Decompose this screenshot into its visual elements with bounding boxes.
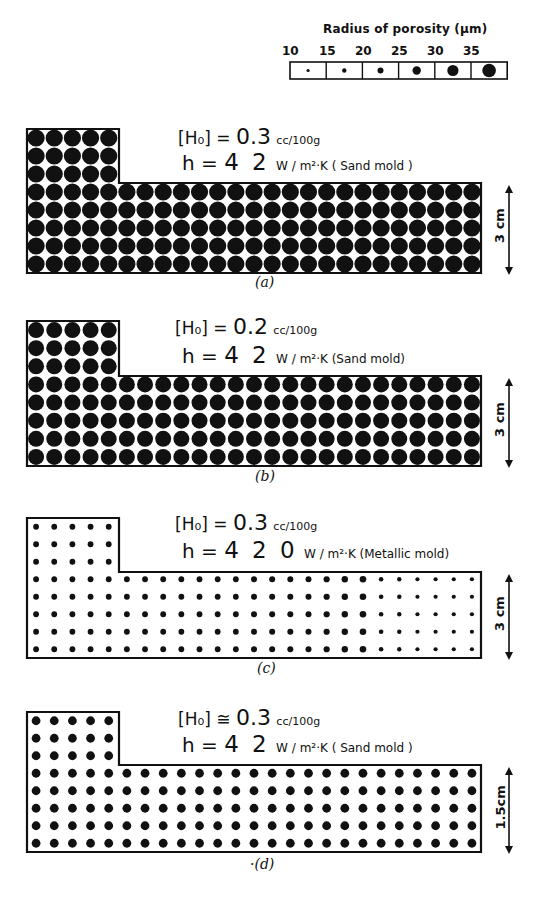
- panel-d-h: h = 4 2 W / m²·K ( Sand mold ): [182, 731, 413, 757]
- porosity-dot: [373, 431, 389, 447]
- porosity-dot: [106, 576, 112, 582]
- porosity-dot: [51, 594, 57, 600]
- porosity-dot: [464, 449, 480, 465]
- porosity-dot: [104, 769, 113, 778]
- porosity-dot: [251, 629, 257, 635]
- porosity-dot: [391, 183, 408, 200]
- porosity-dot: [377, 769, 386, 778]
- porosity-dot: [415, 612, 419, 616]
- porosity-dot: [324, 646, 330, 652]
- porosity-dot: [395, 804, 404, 813]
- porosity-dot: [155, 219, 172, 236]
- porosity-dot: [373, 395, 389, 411]
- porosity-dot: [155, 376, 171, 392]
- porosity-dot: [268, 804, 277, 813]
- porosity-dot: [391, 413, 407, 429]
- porosity-dot: [324, 629, 330, 635]
- porosity-dot: [197, 629, 203, 635]
- porosity-dot: [431, 804, 440, 813]
- porosity-dot: [395, 839, 404, 848]
- porosity-dot: [177, 839, 186, 848]
- porosity-dot: [468, 786, 477, 795]
- porosity-dot: [377, 839, 386, 848]
- porosity-dot: [452, 577, 456, 581]
- porosity-dot: [300, 413, 316, 429]
- porosity-dot: [101, 431, 117, 447]
- porosity-dot: [106, 541, 112, 547]
- porosity-dot: [64, 340, 80, 356]
- porosity-dot: [264, 255, 281, 272]
- porosity-dot: [101, 449, 117, 465]
- porosity-dot: [340, 839, 349, 848]
- porosity-dot: [452, 647, 456, 651]
- porosity-dot: [415, 577, 419, 581]
- porosity-dot: [427, 255, 444, 272]
- porosity-dot: [215, 594, 221, 600]
- porosity-dot: [160, 629, 166, 635]
- porosity-dot: [178, 629, 184, 635]
- porosity-dot: [379, 629, 384, 634]
- porosity-dot: [470, 647, 474, 651]
- porosity-dot: [27, 201, 44, 218]
- porosity-dot: [70, 576, 76, 582]
- porosity-dot: [431, 821, 440, 830]
- porosity-dot: [360, 611, 367, 618]
- porosity-dot: [195, 821, 204, 830]
- porosity-dot: [391, 201, 408, 218]
- porosity-dot: [319, 376, 335, 392]
- porosity-dot: [445, 219, 462, 236]
- porosity-dot: [246, 395, 262, 411]
- porosity-dot: [51, 559, 57, 565]
- porosity-dot: [304, 804, 313, 813]
- porosity-dot: [142, 576, 148, 582]
- porosity-dot: [124, 594, 130, 600]
- porosity-dot: [68, 821, 77, 830]
- porosity-dot: [342, 646, 348, 652]
- porosity-dot: [159, 769, 168, 778]
- porosity-dot: [305, 629, 311, 635]
- porosity-dot: [82, 147, 99, 164]
- porosity-dot: [118, 201, 135, 218]
- porosity-dot: [413, 839, 422, 848]
- porosity-dot: [50, 716, 59, 725]
- porosity-dot: [33, 541, 39, 547]
- porosity-dot: [409, 449, 425, 465]
- porosity-dot: [337, 376, 353, 392]
- porosity-dot: [463, 237, 480, 254]
- porosity-dot: [209, 237, 226, 254]
- porosity-dot: [33, 559, 39, 565]
- porosity-dot: [173, 201, 190, 218]
- porosity-dot: [100, 219, 117, 236]
- porosity-dot: [100, 237, 117, 254]
- porosity-dot: [409, 376, 425, 392]
- porosity-dot: [124, 629, 130, 635]
- porosity-dot: [449, 839, 458, 848]
- porosity-dot: [46, 376, 62, 392]
- porosity-dot: [264, 237, 281, 254]
- legend-porosity-dot: [378, 68, 384, 74]
- porosity-dot: [300, 219, 317, 236]
- porosity-dot: [70, 646, 76, 652]
- porosity-dot: [445, 255, 462, 272]
- porosity-dot: [231, 821, 240, 830]
- porosity-dot: [142, 594, 148, 600]
- porosity-dot: [86, 839, 95, 848]
- h-label: h =: [182, 151, 224, 175]
- panel-d-dimension: 1.5cm: [493, 786, 508, 830]
- panel-a-dimension: 3 cm: [492, 206, 507, 246]
- porosity-dot: [88, 559, 94, 565]
- arrow-up-icon: [505, 378, 513, 386]
- porosity-dot: [27, 165, 44, 182]
- porosity-dot: [337, 449, 353, 465]
- arrow-up-icon: [505, 574, 513, 582]
- porosity-dot: [210, 431, 226, 447]
- h-value: 4 2: [224, 731, 270, 757]
- porosity-dot: [213, 804, 222, 813]
- porosity-dot: [427, 219, 444, 236]
- porosity-dot: [88, 629, 94, 635]
- porosity-dot: [342, 629, 348, 635]
- porosity-dot: [86, 769, 95, 778]
- porosity-dot: [342, 594, 348, 600]
- porosity-dot: [46, 340, 62, 356]
- porosity-dot: [391, 237, 408, 254]
